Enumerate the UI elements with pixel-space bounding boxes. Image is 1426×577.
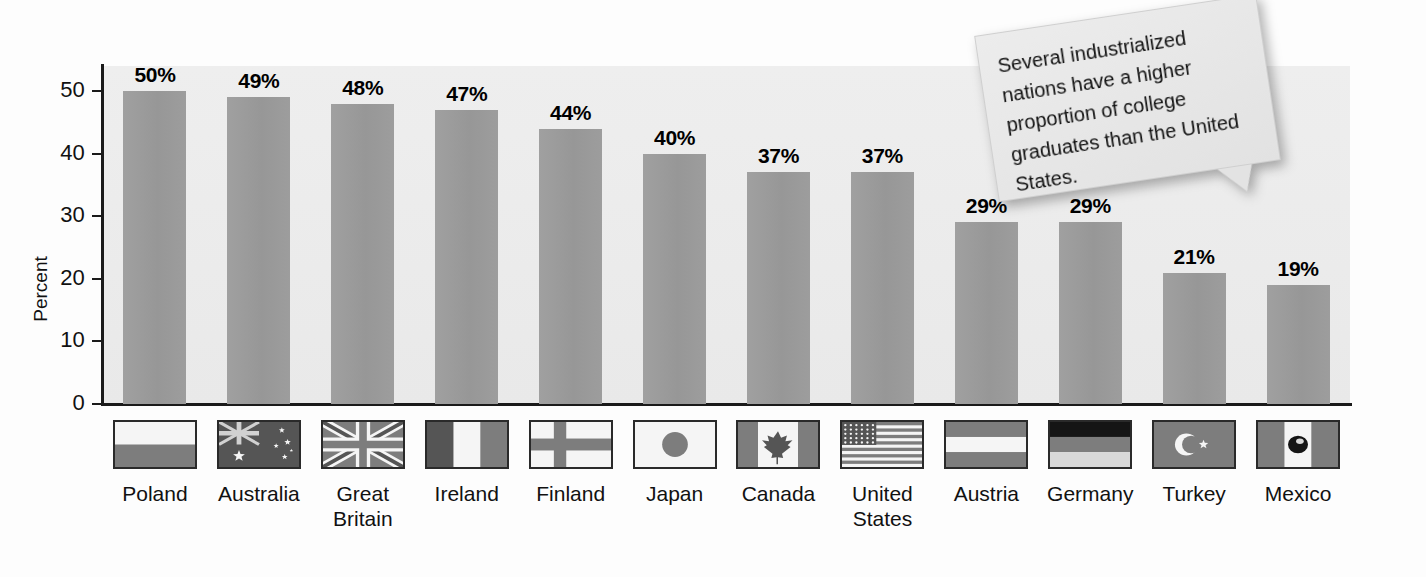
bar-value-label: 37% [727, 144, 831, 168]
bar-chart: Percent 01020304050 50%49%48%47%44%40%37… [0, 0, 1426, 577]
y-axis-label: Percent [30, 256, 52, 321]
y-tick-mark [92, 90, 103, 92]
bar[interactable] [331, 104, 394, 404]
flag-slot [830, 420, 934, 476]
page-bleedthrough [18, 529, 658, 571]
country-label-line: Great [311, 481, 415, 506]
country-label-line: States [830, 506, 934, 531]
flag-slot [727, 420, 831, 476]
country-label-line: Germany [1038, 481, 1142, 506]
country-label: Poland [103, 481, 207, 531]
flag-slot [1246, 420, 1350, 476]
country-label: Ireland [415, 481, 519, 531]
y-tick-label: 30 [60, 202, 85, 228]
country-label-line: Australia [207, 481, 311, 506]
bar-value-label: 19% [1246, 257, 1350, 281]
country-label: Japan [623, 481, 727, 531]
flag-slot [207, 420, 311, 476]
bar[interactable] [1163, 273, 1226, 404]
bar[interactable] [955, 222, 1018, 404]
y-tick-label: 20 [60, 265, 85, 291]
bar[interactable] [1267, 285, 1330, 404]
country-label: Canada [727, 481, 831, 531]
y-tick-label: 40 [60, 140, 85, 166]
country-label-line: United [830, 481, 934, 506]
bar-slot[interactable]: 40% [623, 66, 727, 404]
bar-value-label: 49% [207, 69, 311, 93]
flag-slot [934, 420, 1038, 476]
country-label: Mexico [1246, 481, 1350, 531]
y-tick-label: 50 [60, 77, 85, 103]
bar-value-label: 48% [311, 76, 415, 100]
bar[interactable] [539, 129, 602, 404]
bar-slot[interactable]: 48% [311, 66, 415, 404]
bar[interactable] [435, 110, 498, 404]
country-label-line: Japan [623, 481, 727, 506]
bar-slot[interactable]: 44% [519, 66, 623, 404]
flag-austria-icon [944, 420, 1028, 469]
flag-canada-icon [736, 420, 820, 469]
flag-slot [519, 420, 623, 476]
flag-slot [311, 420, 415, 476]
y-tick-mark [92, 403, 103, 405]
country-label-line: Austria [934, 481, 1038, 506]
country-label: Finland [519, 481, 623, 531]
flag-australia-icon [217, 420, 301, 469]
country-label-line: Mexico [1246, 481, 1350, 506]
country-label-line: Poland [103, 481, 207, 506]
flag-slot [103, 420, 207, 476]
bar-value-label: 29% [1038, 194, 1142, 218]
bar-value-label: 47% [415, 82, 519, 106]
country-label-line: Finland [519, 481, 623, 506]
y-tick-label: 10 [60, 327, 85, 353]
bar[interactable] [851, 172, 914, 404]
bar-value-label: 37% [830, 144, 934, 168]
bar-slot[interactable]: 50% [103, 66, 207, 404]
country-labels-row: PolandAustraliaGreatBritainIrelandFinlan… [103, 481, 1350, 531]
country-label: Turkey [1142, 481, 1246, 531]
flags-row [103, 420, 1350, 476]
bar[interactable] [227, 97, 290, 404]
country-label-line: Ireland [415, 481, 519, 506]
flag-slot [415, 420, 519, 476]
flag-germany-icon [1048, 420, 1132, 469]
flag-slot [1038, 420, 1142, 476]
bar-slot[interactable]: 47% [415, 66, 519, 404]
flag-japan-icon [633, 420, 717, 469]
y-tick-mark [92, 215, 103, 217]
bar-value-label: 44% [519, 101, 623, 125]
flag-slot [623, 420, 727, 476]
y-tick-label: 0 [73, 390, 85, 416]
flag-slot [1142, 420, 1246, 476]
callout-note: Several industrialized nations have a hi… [974, 0, 1281, 202]
bar[interactable] [1059, 222, 1122, 404]
bar-value-label: 50% [103, 63, 207, 87]
country-label: UnitedStates [830, 481, 934, 531]
country-label: GreatBritain [311, 481, 415, 531]
bar-slot[interactable]: 37% [830, 66, 934, 404]
y-tick-mark [92, 278, 103, 280]
bar-value-label: 21% [1142, 245, 1246, 269]
flag-united-states-icon [840, 420, 924, 469]
flag-poland-icon [113, 420, 197, 469]
bar-value-label: 40% [623, 126, 727, 150]
y-tick-mark [92, 340, 103, 342]
flag-great-britain-icon [321, 420, 405, 469]
bar[interactable] [123, 91, 186, 404]
bar[interactable] [643, 154, 706, 404]
country-label-line: Britain [311, 506, 415, 531]
country-label: Australia [207, 481, 311, 531]
flag-ireland-icon [425, 420, 509, 469]
flag-finland-icon [529, 420, 613, 469]
country-label: Austria [934, 481, 1038, 531]
flag-mexico-icon [1256, 420, 1340, 469]
country-label: Germany [1038, 481, 1142, 531]
bar[interactable] [747, 172, 810, 404]
bar-slot[interactable]: 37% [727, 66, 831, 404]
country-label-line: Canada [727, 481, 831, 506]
flag-turkey-icon [1152, 420, 1236, 469]
bar-slot[interactable]: 49% [207, 66, 311, 404]
y-tick-mark [92, 153, 103, 155]
country-label-line: Turkey [1142, 481, 1246, 506]
